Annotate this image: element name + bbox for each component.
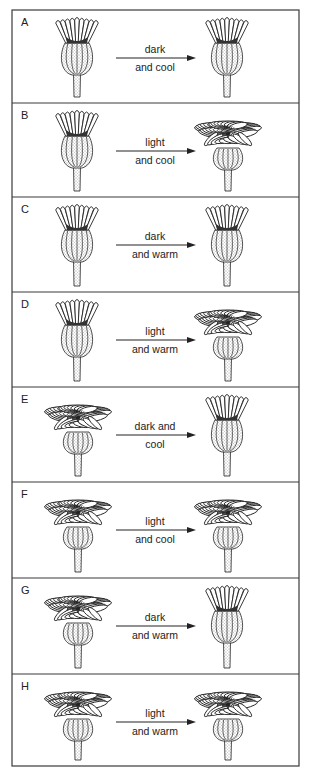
- flower-center: [76, 511, 80, 515]
- open-flower-head: [194, 499, 262, 572]
- stem: [225, 547, 232, 572]
- arrow-head-icon: [187, 527, 196, 533]
- flower-center: [76, 416, 80, 420]
- arrow-head-icon: [187, 337, 196, 343]
- arrow-head-icon: [187, 148, 196, 154]
- panel-g: Gdarkand warm: [12, 578, 299, 668]
- arrow-head-icon: [187, 432, 196, 438]
- condition-label-line2: and cool: [135, 61, 175, 73]
- flower-center: [226, 132, 230, 136]
- stem: [224, 73, 231, 97]
- condition-label-line1: dark: [145, 611, 166, 623]
- panel-h: Hlightand warm: [12, 674, 299, 760]
- stem: [224, 260, 231, 286]
- closed-flower-head: [56, 111, 99, 192]
- condition-label-line2: and warm: [132, 629, 178, 641]
- stem: [225, 357, 232, 381]
- panel-label: E: [21, 393, 28, 405]
- condition-label-line2: and warm: [132, 343, 178, 355]
- stem: [75, 643, 82, 668]
- stem: [75, 452, 82, 476]
- panel-c: Cdarkand warm: [12, 197, 299, 286]
- panel-label: G: [21, 584, 30, 596]
- panel-e: Edark andcool: [12, 387, 299, 476]
- closed-flower-head: [56, 300, 99, 382]
- panel-label: A: [21, 16, 29, 28]
- figure-border: [12, 10, 299, 766]
- open-flower-head: [44, 595, 112, 668]
- open-flower-head: [194, 309, 262, 381]
- arrow-head-icon: [187, 242, 196, 248]
- condition-label-line1: light: [145, 515, 164, 527]
- closed-flower-head: [206, 18, 249, 98]
- closed-flower-head: [56, 18, 99, 98]
- condition-label-line1: dark: [145, 43, 166, 55]
- arrow-head-icon: [187, 623, 196, 629]
- flower-center: [76, 607, 80, 611]
- panel-d: Dlightand warm: [12, 292, 299, 381]
- stem: [225, 739, 232, 760]
- open-flower-head: [44, 404, 112, 476]
- stem: [74, 73, 81, 97]
- stem: [225, 168, 232, 191]
- condition-label-line2: and warm: [132, 725, 178, 737]
- stem: [74, 355, 81, 381]
- panel-label: C: [21, 203, 29, 215]
- panel-label: H: [21, 680, 29, 692]
- panel-label: D: [21, 298, 29, 310]
- condition-label-line2: and warm: [132, 248, 178, 260]
- closed-flower-head: [206, 586, 249, 669]
- flower-center: [226, 703, 230, 707]
- condition-label-line1: light: [145, 325, 164, 337]
- stem: [74, 166, 81, 191]
- condition-label-line2: and cool: [135, 154, 175, 166]
- panel-a: Adarkand cool: [21, 16, 248, 97]
- stem: [75, 739, 82, 760]
- flower-center: [226, 511, 230, 515]
- panel-b: Blightand cool: [12, 103, 299, 191]
- condition-label-line2: cool: [145, 438, 164, 450]
- arrow-head-icon: [187, 55, 196, 61]
- condition-label-line1: dark and: [135, 420, 176, 432]
- panel-label: F: [21, 488, 28, 500]
- flower-response-figure: Adarkand coolBlightand coolCdarkand warm…: [0, 0, 310, 776]
- closed-flower-head: [206, 205, 249, 287]
- arrow-head-icon: [187, 719, 196, 725]
- stem: [74, 260, 81, 286]
- condition-label-line1: dark: [145, 230, 166, 242]
- stem: [224, 641, 231, 668]
- panel-label: B: [21, 109, 28, 121]
- stem: [224, 450, 231, 476]
- open-flower-head: [194, 691, 262, 760]
- open-flower-head: [44, 499, 112, 572]
- closed-flower-head: [56, 205, 99, 287]
- condition-label-line1: light: [145, 136, 164, 148]
- panel-f: Flightand cool: [12, 482, 299, 572]
- open-flower-head: [194, 120, 262, 191]
- flower-center: [76, 703, 80, 707]
- closed-flower-head: [206, 395, 249, 477]
- condition-label-line2: and cool: [135, 533, 175, 545]
- open-flower-head: [44, 691, 112, 760]
- condition-label-line1: light: [145, 707, 164, 719]
- panels: Adarkand coolBlightand coolCdarkand warm…: [12, 16, 299, 760]
- flower-center: [226, 321, 230, 325]
- stem: [75, 547, 82, 572]
